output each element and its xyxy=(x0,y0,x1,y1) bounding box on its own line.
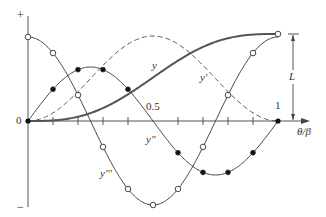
jerk-label: y''' xyxy=(100,168,112,179)
x-axis-arrow-icon xyxy=(301,118,310,124)
open-marker xyxy=(175,186,181,192)
acceleration-label: y" xyxy=(146,134,156,145)
filled-marker xyxy=(101,67,106,72)
cam-motion-diagram: + − 0 0.5 1 θ/β L y y' y" y''' xyxy=(0,0,326,217)
open-marker xyxy=(25,34,31,40)
filled-marker xyxy=(176,150,181,155)
dimension-arrow-down-icon xyxy=(291,114,295,120)
origin-dot xyxy=(25,118,30,123)
minus-label: − xyxy=(17,201,24,213)
open-marker xyxy=(250,50,256,56)
dimension-arrow-up-icon xyxy=(291,35,295,41)
plus-label: + xyxy=(17,9,24,21)
open-marker xyxy=(100,144,106,150)
half-tick-label: 0.5 xyxy=(146,101,160,112)
filled-marker xyxy=(201,170,206,175)
open-marker xyxy=(225,92,231,98)
filled-marker xyxy=(51,87,56,92)
open-marker xyxy=(275,31,281,37)
filled-marker xyxy=(226,170,231,175)
displacement-label: y xyxy=(152,60,157,71)
x-axis-label: θ/β xyxy=(297,126,311,137)
open-marker xyxy=(75,92,81,98)
one-tick-label: 1 xyxy=(275,100,281,111)
dimension-label: L xyxy=(289,71,295,82)
velocity-label: y' xyxy=(200,72,207,83)
open-marker xyxy=(200,144,206,150)
origin-label: 0 xyxy=(16,115,22,126)
end-dot xyxy=(275,118,280,123)
filled-marker xyxy=(251,150,256,155)
open-marker xyxy=(150,202,156,208)
open-marker xyxy=(50,50,56,56)
filled-marker xyxy=(76,67,81,72)
open-marker xyxy=(125,186,131,192)
filled-marker xyxy=(126,87,131,92)
